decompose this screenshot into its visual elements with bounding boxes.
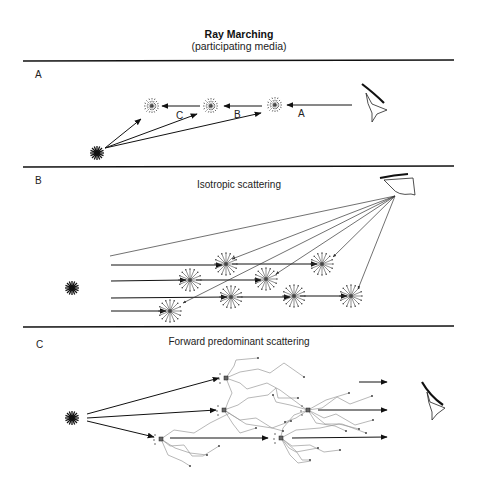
scatter-point-icon — [178, 268, 201, 291]
panel-a-label: A — [35, 69, 42, 80]
panel-b: B Isotropic scattering — [35, 174, 415, 323]
scatter-node-icon — [218, 373, 228, 383]
scatter-paths — [161, 358, 373, 466]
scatter-point-icon — [282, 284, 305, 307]
divider-b-c — [23, 326, 454, 327]
scatter-point-icon — [158, 299, 181, 322]
panel-c-label: C — [36, 339, 43, 350]
scatter-point-icon — [310, 252, 333, 275]
light-source-icon — [65, 411, 79, 425]
scatter-point-icon — [254, 267, 277, 290]
light-source-icon — [65, 281, 79, 295]
scatter-point-icon — [219, 285, 242, 308]
segment-label-a: A — [298, 108, 305, 119]
diagram-title: Ray Marching — [205, 28, 274, 40]
divider-top — [23, 60, 454, 61]
scatter-node-icon — [153, 434, 163, 444]
divider-a-b — [23, 166, 454, 167]
scatter-node-icon — [216, 405, 226, 415]
eye-icon — [362, 84, 387, 122]
light-source-icon — [90, 146, 104, 160]
panel-c-heading: Forward predominant scattering — [168, 336, 309, 347]
ray-marching-diagram: Ray Marching (participating media) A C B… — [0, 0, 479, 488]
sample-point-c-icon — [144, 98, 160, 114]
segment-label-b: B — [234, 109, 241, 120]
eye-icon — [422, 382, 445, 420]
segment-label-c: C — [176, 110, 183, 121]
panel-c: C Forward predominant scattering — [36, 336, 445, 467]
sample-point-a-icon — [267, 97, 283, 113]
scatter-point-icon — [339, 284, 362, 307]
panel-a: A C B A — [35, 69, 387, 160]
panel-b-label: B — [35, 175, 42, 186]
eye-icon — [380, 174, 415, 195]
scatter-point-icon — [214, 252, 237, 275]
panel-b-heading: Isotropic scattering — [197, 179, 281, 190]
diagram-subtitle: (participating media) — [191, 40, 286, 52]
sample-point-b-icon — [203, 98, 219, 114]
